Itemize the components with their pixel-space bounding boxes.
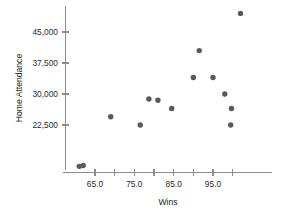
data-point [169,106,174,111]
x-tick-label: 75.0 [126,179,143,189]
data-point [210,75,215,80]
y-tick-label: 22,500 [32,120,58,130]
data-point [155,98,160,103]
data-point [191,75,196,80]
data-point [138,122,143,127]
data-point [197,48,202,53]
data-point [81,163,86,168]
x-tick-label: 65.0 [87,179,104,189]
y-tick-label: 45,000 [32,27,58,37]
y-axis-title: Home Attendance [14,54,24,123]
x-tick-label: 95.0 [205,179,222,189]
x-tick-label: 85.0 [166,179,183,189]
data-point [222,91,227,96]
scatter-plot-figure: 22,50030,00037,50045,000 65.075.085.095.… [0,0,282,215]
data-point [146,96,151,101]
data-point [229,106,234,111]
chart-canvas: 22,50030,00037,50045,000 65.075.085.095.… [0,0,282,215]
data-point [228,122,233,127]
data-point [238,11,243,16]
y-tick-label: 30,000 [32,89,58,99]
data-point [108,114,113,119]
y-tick-label: 37,500 [32,58,58,68]
x-axis-title: Wins [158,197,177,207]
